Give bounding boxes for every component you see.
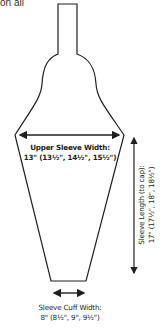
cuff-width-title: Sleeve Cuff Width: [30, 303, 110, 313]
sleeve-length-label: Sleeve Length (to cap): 17" (17½", 18", … [137, 140, 156, 270]
sleeve-length-title: Sleeve Length (to cap): [137, 140, 147, 270]
sleeve-length-value: 17" (17½", 18", 18½") [146, 140, 156, 270]
cuff-width-value: 8" (8½", 9", 9½") [30, 313, 110, 323]
upper-width-value: 13" (13½", 14½", 15½") [16, 153, 124, 163]
upper-width-title: Upper Sleeve Width: [16, 143, 124, 153]
cuff-width-label: Sleeve Cuff Width: 8" (8½", 9", 9½") [30, 303, 110, 322]
upper-width-label: Upper Sleeve Width: 13" (13½", 14½", 15½… [16, 143, 124, 162]
